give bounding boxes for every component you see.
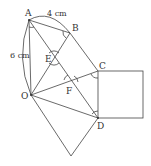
label-c: C <box>99 62 106 71</box>
label-ab-length: 4 cm <box>47 10 67 18</box>
label-f: F <box>66 87 72 96</box>
arc-ab <box>29 16 70 33</box>
label-b: B <box>72 24 79 33</box>
geometry-figure: A B C D E F O 4 cm 6 cm <box>0 0 151 166</box>
label-o: O <box>21 92 28 101</box>
square <box>98 71 143 118</box>
label-e: E <box>45 55 52 64</box>
label-d: D <box>97 122 104 131</box>
label-ao-length: 6 cm <box>10 52 30 60</box>
label-a: A <box>25 9 32 18</box>
